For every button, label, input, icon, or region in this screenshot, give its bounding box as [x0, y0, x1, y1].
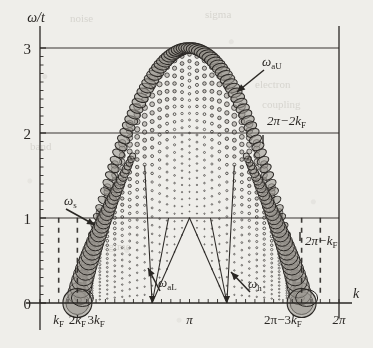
weight-marker	[189, 158, 190, 159]
weight-marker	[188, 79, 191, 82]
weight-marker	[136, 264, 138, 266]
weight-marker	[204, 190, 206, 192]
weight-marker	[271, 280, 273, 282]
weight-marker	[114, 276, 116, 278]
weight-marker	[129, 289, 130, 290]
weight-marker	[136, 287, 137, 288]
weight-marker	[144, 212, 146, 214]
weight-marker	[159, 243, 160, 244]
weight-marker	[106, 284, 108, 286]
weight-marker	[248, 268, 250, 270]
weight-marker	[196, 213, 197, 214]
weight-marker	[151, 207, 153, 209]
weight-marker	[166, 147, 168, 149]
weight-marker	[241, 287, 242, 288]
weight-marker	[248, 240, 250, 242]
weight-marker	[189, 185, 190, 186]
weight-marker	[217, 108, 221, 112]
weight-marker	[263, 259, 265, 261]
weight-marker	[189, 211, 190, 212]
weight-marker	[256, 259, 258, 261]
weight-marker	[210, 89, 214, 93]
weight-marker	[240, 181, 243, 184]
weight-marker	[263, 216, 266, 219]
weight-marker	[136, 196, 139, 199]
weight-marker	[99, 299, 100, 300]
weight-marker	[203, 113, 206, 116]
weight-marker	[150, 120, 154, 124]
omega-s-marker	[243, 153, 249, 159]
weight-marker	[189, 204, 190, 205]
weight-marker	[181, 112, 183, 114]
weight-marker	[99, 292, 100, 293]
dispersion-spectral-weight-chart: noisesigmaelectroncouplingregimeband0123…	[0, 0, 373, 348]
weight-marker	[271, 293, 272, 294]
weight-marker	[181, 206, 182, 207]
weight-marker	[173, 128, 175, 130]
weight-marker	[263, 238, 265, 240]
weight-marker	[181, 91, 184, 94]
weight-marker	[159, 176, 161, 178]
weight-marker	[226, 172, 228, 174]
weight-marker	[99, 271, 101, 273]
weight-marker	[256, 228, 258, 230]
weight-marker	[136, 204, 138, 206]
weight-marker	[173, 105, 176, 108]
weight-marker	[271, 253, 273, 255]
weight-marker	[240, 165, 243, 168]
weight-marker	[241, 249, 243, 251]
weight-marker	[204, 182, 206, 184]
weight-marker	[121, 228, 123, 230]
weight-marker	[166, 204, 168, 206]
weight-marker	[210, 98, 214, 102]
weight-marker	[92, 290, 94, 292]
weight-marker	[129, 282, 130, 283]
weight-marker	[202, 66, 206, 70]
weight-marker	[99, 267, 101, 269]
weight-marker	[122, 290, 123, 291]
weight-marker	[107, 293, 108, 294]
weight-marker	[218, 159, 220, 161]
weight-marker	[233, 212, 235, 214]
weight-marker	[263, 276, 265, 278]
weight-marker	[196, 227, 197, 228]
weight-marker	[226, 216, 228, 218]
weight-marker	[211, 155, 213, 157]
weight-marker	[248, 247, 250, 249]
weight-marker	[174, 167, 176, 169]
weight-marker	[263, 254, 265, 256]
weight-marker	[129, 268, 131, 270]
flank-branch-omega-s	[63, 153, 318, 318]
weight-marker	[263, 265, 265, 267]
weight-marker	[203, 105, 206, 108]
y-axis-title: ω/t	[27, 10, 46, 25]
weight-marker	[203, 97, 206, 100]
weight-marker	[188, 112, 190, 114]
weight-marker	[189, 152, 191, 154]
weight-marker	[173, 121, 176, 124]
weight-marker	[180, 62, 184, 66]
annotation-omega-aU: ωaU	[262, 54, 282, 71]
weight-marker	[121, 222, 124, 225]
weight-marker	[121, 253, 123, 255]
weight-marker	[241, 264, 243, 266]
weight-marker	[107, 298, 108, 299]
weight-marker	[129, 261, 131, 263]
weight-marker	[226, 207, 228, 209]
weight-marker	[271, 271, 273, 273]
weight-marker	[248, 184, 251, 187]
weight-marker	[136, 226, 138, 228]
weight-marker	[166, 163, 168, 165]
weight-marker	[128, 198, 131, 201]
weight-marker	[151, 198, 153, 200]
weight-marker	[204, 175, 206, 177]
weight-marker	[150, 111, 154, 115]
weight-marker	[181, 163, 183, 165]
weight-marker	[165, 81, 169, 85]
weight-marker	[248, 177, 252, 181]
weight-marker	[241, 280, 242, 281]
weight-marker	[143, 155, 146, 158]
weight-marker	[151, 172, 153, 174]
weight-marker	[226, 250, 227, 251]
weight-marker	[278, 267, 280, 269]
